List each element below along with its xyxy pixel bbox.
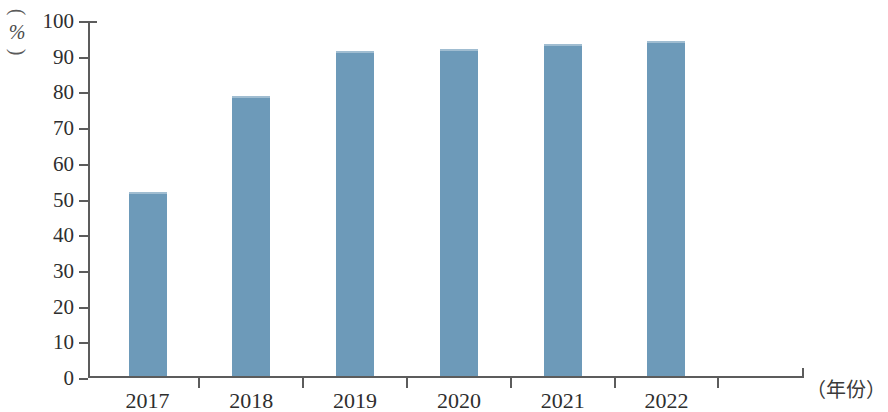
x-axis-right-cap <box>802 368 804 378</box>
x-axis-tick-mark <box>717 378 719 388</box>
x-axis-tick-label: 2019 <box>300 388 410 412</box>
y-axis-tick-label: 40 <box>24 223 74 248</box>
bar <box>129 192 167 376</box>
y-axis-tick-label: 50 <box>24 188 74 213</box>
y-axis-tick-label: 80 <box>24 80 74 105</box>
y-axis-tick-mark <box>79 342 88 344</box>
bar <box>440 49 478 376</box>
bar <box>336 51 374 376</box>
y-axis-line <box>88 21 90 378</box>
plot-area: 1009080706050403020100 20172018201920202… <box>88 21 804 378</box>
x-axis-tick-label: 2017 <box>93 388 203 412</box>
y-axis-tick-mark <box>79 200 88 202</box>
x-axis-tick-mark <box>302 378 304 388</box>
y-axis-tick-mark <box>79 21 88 23</box>
bar-top-highlight <box>232 96 270 98</box>
bar-top-highlight <box>336 51 374 53</box>
x-axis-tick-mark <box>198 378 200 388</box>
x-axis-label: （年份） <box>806 374 886 403</box>
y-axis-tick-label: 100 <box>24 9 74 34</box>
y-axis-tick-mark <box>79 92 88 94</box>
y-axis-tick-mark <box>79 235 88 237</box>
bar-top-highlight <box>544 44 582 46</box>
y-axis-tick-label: 90 <box>24 45 74 70</box>
bar <box>232 96 270 376</box>
y-axis-tick-mark <box>79 128 88 130</box>
y-axis-top-cap <box>88 21 97 23</box>
y-axis-tick-label: 10 <box>24 330 74 355</box>
y-axis-tick-label: 20 <box>24 295 74 320</box>
y-axis-tick-label: 60 <box>24 152 74 177</box>
x-axis-tick-mark <box>614 378 616 388</box>
bar-top-highlight <box>440 49 478 51</box>
y-axis-tick-label: 0 <box>24 366 74 391</box>
bar-top-highlight <box>647 41 685 43</box>
x-axis-line <box>88 376 804 378</box>
x-axis-tick-mark <box>510 378 512 388</box>
y-axis-tick-mark <box>79 271 88 273</box>
y-axis-label-open-paren: ( <box>9 0 25 27</box>
y-axis-tick-mark <box>79 164 88 166</box>
y-axis-tick-mark <box>79 378 88 380</box>
x-axis-tick-label: 2018 <box>196 388 306 412</box>
y-axis-label-close-paren: ) <box>9 37 25 67</box>
y-axis-tick-mark <box>79 57 88 59</box>
y-axis-tick-label: 30 <box>24 259 74 284</box>
bar <box>647 41 685 376</box>
y-axis-tick-label: 70 <box>24 116 74 141</box>
x-axis-tick-label: 2022 <box>611 388 721 412</box>
x-axis-tick-mark <box>406 378 408 388</box>
x-axis-tick-label: 2020 <box>404 388 514 412</box>
bar-top-highlight <box>129 192 167 194</box>
bar <box>544 44 582 376</box>
x-axis-tick-label: 2021 <box>508 388 618 412</box>
y-axis-tick-mark <box>79 307 88 309</box>
